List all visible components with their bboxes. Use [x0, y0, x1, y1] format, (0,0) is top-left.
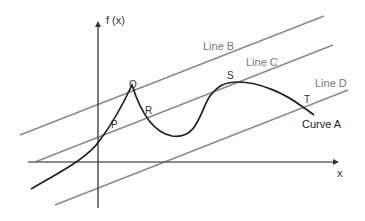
line-c	[35, 45, 333, 162]
point-q-label: Q	[129, 79, 137, 90]
point-t-label: T	[304, 94, 310, 105]
curve-a-label: Curve A	[302, 118, 342, 130]
line-b-label: Line B	[203, 40, 234, 52]
curve-a	[31, 82, 314, 189]
diagram-canvas: f (x) x Line B Line C Line D Curve A P Q…	[0, 0, 365, 221]
x-axis-label: x	[337, 167, 343, 179]
y-axis-label: f (x)	[106, 14, 125, 26]
y-axis-arrow-icon	[95, 21, 101, 27]
point-r-label: R	[145, 105, 152, 116]
x-axis-arrow-icon	[333, 159, 339, 165]
point-p-label: P	[111, 119, 118, 130]
point-s-label: S	[227, 70, 234, 81]
line-c-label: Line C	[246, 56, 278, 68]
line-d-label: Line D	[315, 77, 347, 89]
